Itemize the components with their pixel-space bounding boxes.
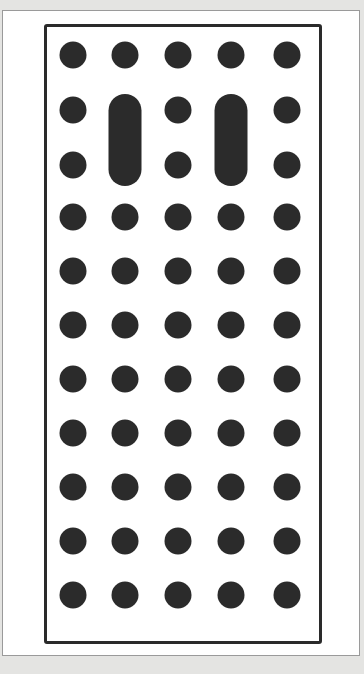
dot (165, 258, 192, 285)
dot (218, 528, 245, 555)
dot (60, 474, 87, 501)
dot (60, 204, 87, 231)
dot (112, 204, 139, 231)
dot (112, 474, 139, 501)
dot (218, 258, 245, 285)
dot (112, 420, 139, 447)
dot (112, 312, 139, 339)
dot (112, 42, 139, 69)
dot (218, 420, 245, 447)
dot (165, 97, 192, 124)
dot (165, 528, 192, 555)
dot (218, 474, 245, 501)
dot (274, 258, 301, 285)
dot (274, 366, 301, 393)
dot (165, 152, 192, 179)
dot (165, 474, 192, 501)
dot (60, 258, 87, 285)
dot (60, 152, 87, 179)
dot (60, 42, 87, 69)
dot (274, 204, 301, 231)
dot (112, 582, 139, 609)
dot (274, 582, 301, 609)
dot (274, 42, 301, 69)
pill-shape (215, 94, 248, 186)
dot (274, 528, 301, 555)
dot (218, 312, 245, 339)
dot (274, 152, 301, 179)
dot (218, 582, 245, 609)
dot (165, 42, 192, 69)
dot (274, 420, 301, 447)
dot (60, 582, 87, 609)
dot (274, 97, 301, 124)
dot (112, 528, 139, 555)
dot (60, 312, 87, 339)
dot (274, 312, 301, 339)
dot (60, 366, 87, 393)
dot (165, 366, 192, 393)
dot (112, 366, 139, 393)
dot (165, 204, 192, 231)
dot (60, 420, 87, 447)
dot (165, 312, 192, 339)
dot (112, 258, 139, 285)
dot (60, 528, 87, 555)
dot (165, 420, 192, 447)
dot (218, 204, 245, 231)
dot (274, 474, 301, 501)
pill-shape (109, 94, 142, 186)
dot (218, 366, 245, 393)
dot (60, 97, 87, 124)
dot (165, 582, 192, 609)
dot (218, 42, 245, 69)
